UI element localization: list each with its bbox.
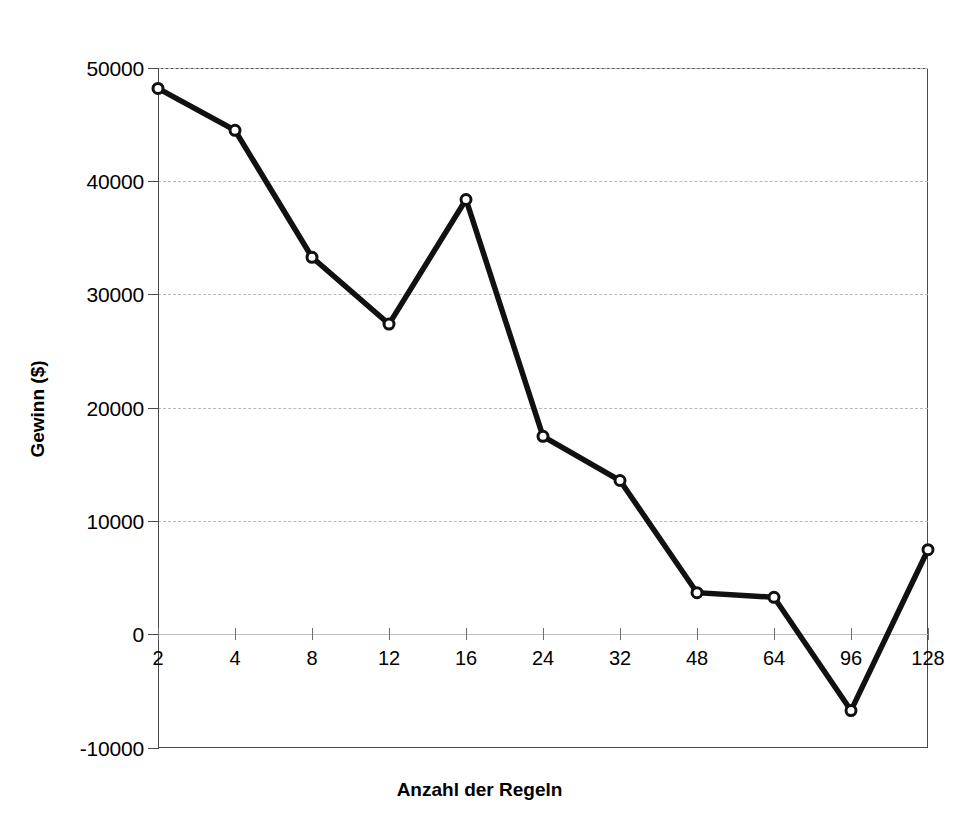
x-tick-16	[466, 628, 467, 640]
x-tick-label-12: 12	[378, 648, 400, 668]
y-tick-label-30000: 30000	[87, 284, 144, 305]
y-tick-50000	[148, 68, 159, 69]
x-tick-label-16: 16	[455, 648, 477, 668]
x-tick-8	[312, 628, 313, 640]
y-tick-label-minus10000: -10000	[80, 738, 144, 759]
x-tick-32	[620, 628, 621, 640]
x-tick-4	[235, 628, 236, 640]
y-tick-40000	[148, 181, 159, 182]
x-tick-label-2: 2	[152, 648, 163, 668]
x-tick-64	[774, 628, 775, 640]
gridline-10000	[158, 521, 928, 522]
y-tick-minus-10000	[148, 748, 159, 749]
x-tick-128	[928, 628, 929, 640]
y-tick-30000	[148, 294, 159, 295]
x-tick-label-96: 96	[840, 648, 862, 668]
x-tick-label-8: 8	[306, 648, 317, 668]
x-tick-label-64: 64	[763, 648, 785, 668]
x-tick-label-128: 128	[911, 648, 944, 668]
x-tick-96	[851, 628, 852, 640]
y-tick-label-10000: 10000	[87, 511, 144, 532]
y-tick-10000	[148, 521, 159, 522]
x-axis-title: Anzahl der Regeln	[0, 779, 959, 801]
gridline-30000	[158, 294, 928, 295]
y-tick-label-20000: 20000	[87, 398, 144, 419]
x-tick-12	[389, 628, 390, 640]
x-tick-24	[543, 628, 544, 640]
y-tick-20000	[148, 408, 159, 409]
y-tick-label-50000: 50000	[87, 58, 144, 79]
x-tick-label-24: 24	[532, 648, 554, 668]
line-chart: 50000 40000 30000 20000 10000 0 -10000 2…	[0, 0, 959, 837]
y-tick-label-40000: 40000	[87, 171, 144, 192]
gridline-50000	[158, 68, 928, 69]
y-tick-label-0: 0	[133, 624, 144, 645]
x-tick-label-32: 32	[609, 648, 631, 668]
gridline-40000	[158, 181, 928, 182]
x-tick-label-48: 48	[686, 648, 708, 668]
x-tick-label-4: 4	[229, 648, 240, 668]
x-tick-2	[158, 628, 159, 640]
gridline-20000	[158, 408, 928, 409]
x-tick-48	[697, 628, 698, 640]
y-axis-title: Gewinn ($)	[27, 309, 49, 509]
